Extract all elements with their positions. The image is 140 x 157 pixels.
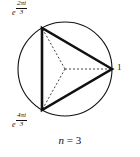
vertex-marker-e-2pi-i-3 [41,27,43,29]
euler-exponent-top: 2πi 3 [16,0,27,17]
vertex-label-one: 1 [117,63,122,72]
vertex-marker-1 [111,68,113,70]
fraction-top: 2πi 3 [16,0,27,17]
figure-caption: n = 3 [0,134,140,146]
caption-equals: = [64,134,76,146]
euler-expression-top: e 2πi 3 [12,2,27,19]
fraction-numerator-top: 2πi [16,0,27,7]
euler-expression-bottom: e 4πi 3 [12,114,27,131]
fraction-bottom: 4πi 3 [16,112,27,129]
fraction-numerator-bottom: 4πi [16,112,27,119]
euler-base-top: e [12,8,16,17]
caption-value: 3 [76,134,82,146]
radii-group [42,28,112,110]
roots-of-unity-figure: e 2πi 3 e 4πi 3 1 n = 3 [0,0,140,157]
fraction-denominator-top: 3 [16,9,27,16]
euler-base-bottom: e [12,120,16,129]
euler-exponent-bottom: 4πi 3 [16,112,27,129]
vertex-label-e-2pi-i-3: e 2πi 3 [12,2,27,19]
fraction-denominator-bottom: 3 [16,121,27,128]
vertex-marker-e-4pi-i-3 [41,109,43,111]
vertex-label-e-4pi-i-3: e 4πi 3 [12,114,27,131]
